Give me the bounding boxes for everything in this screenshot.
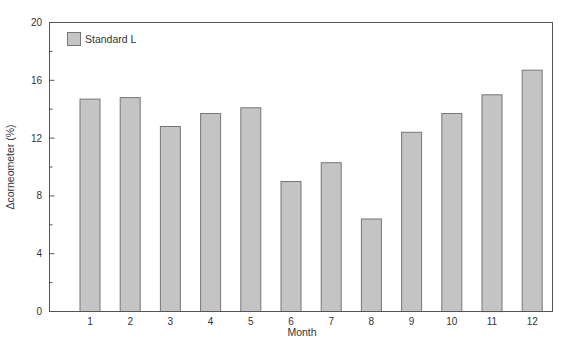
y-tick-label: 20 xyxy=(31,17,43,28)
x-tick-label: 10 xyxy=(446,316,458,327)
y-tick-label: 8 xyxy=(36,190,42,201)
bar-month-4 xyxy=(201,114,221,312)
x-tick-label: 4 xyxy=(208,316,214,327)
bar-month-8 xyxy=(361,219,381,312)
x-tick-label: 9 xyxy=(409,316,415,327)
x-tick-label: 7 xyxy=(328,316,334,327)
bar-chart: 048121620 123456789101112 Δcorneometer (… xyxy=(0,0,564,351)
x-tick-label: 11 xyxy=(487,316,498,327)
bar-month-9 xyxy=(402,132,422,311)
bar-month-11 xyxy=(482,95,502,312)
bar-month-7 xyxy=(321,163,341,312)
bar-month-12 xyxy=(522,70,542,311)
legend-label: Standard L xyxy=(85,33,137,45)
bar-month-2 xyxy=(120,98,140,312)
x-tick-label: 2 xyxy=(127,316,133,327)
bar-month-5 xyxy=(241,108,261,312)
x-tick-label: 12 xyxy=(527,316,539,327)
y-axis-title: Δcorneometer (%) xyxy=(4,124,16,209)
bar-month-3 xyxy=(160,127,180,312)
y-tick-label: 0 xyxy=(36,306,42,317)
bar-month-10 xyxy=(442,114,462,312)
bars-group xyxy=(80,70,542,311)
legend: Standard L xyxy=(68,33,137,46)
y-axis: 048121620 xyxy=(31,17,55,317)
x-tick-label: 1 xyxy=(87,316,93,327)
x-tick-label: 8 xyxy=(369,316,375,327)
y-tick-label: 4 xyxy=(36,248,42,259)
x-tick-label: 3 xyxy=(168,316,174,327)
bar-month-6 xyxy=(281,182,301,312)
y-tick-label: 16 xyxy=(31,75,43,86)
x-axis-title: Month xyxy=(287,326,316,338)
x-tick-label: 5 xyxy=(248,316,254,327)
bar-month-1 xyxy=(80,99,100,311)
y-tick-label: 12 xyxy=(31,133,43,144)
legend-swatch xyxy=(68,33,81,46)
